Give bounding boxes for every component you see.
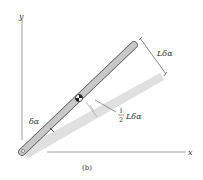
svg-text:2: 2 bbox=[119, 116, 123, 124]
center-of-mass-icon bbox=[75, 94, 82, 101]
angle-label: δα bbox=[29, 117, 40, 126]
x-axis-label: x bbox=[188, 148, 193, 157]
y-axis-label: y bbox=[18, 12, 24, 21]
svg-text:Lδα: Lδα bbox=[125, 112, 142, 121]
bar-tick bbox=[50, 128, 54, 132]
diagram-svg: y x Lδα 1 2 bbox=[0, 0, 203, 180]
pin-icon bbox=[22, 150, 25, 153]
mid-displacement-label: 1 2 Lδα bbox=[118, 107, 142, 124]
figure-caption: (b) bbox=[82, 164, 92, 172]
end-displacement-label: Lδα bbox=[156, 49, 173, 58]
svg-text:1: 1 bbox=[119, 107, 123, 115]
virtual-displacement-diagram: y x Lδα 1 2 bbox=[0, 0, 203, 180]
